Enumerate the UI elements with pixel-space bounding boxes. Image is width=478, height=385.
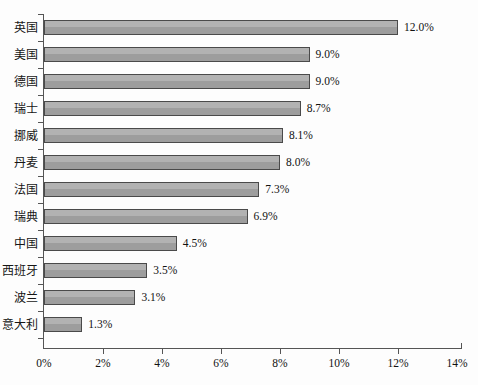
bar-value-label: 1.3% <box>88 317 112 332</box>
category-label: 挪威 <box>0 129 38 143</box>
bar <box>44 74 310 89</box>
y-axis-tick <box>38 41 44 42</box>
bar-value-label: 8.0% <box>286 155 310 170</box>
bar <box>44 101 301 116</box>
category-label: 美国 <box>0 48 38 62</box>
category-label: 瑞士 <box>0 102 38 116</box>
x-axis-tick-label: 10% <box>317 357 361 369</box>
x-axis-right-cap <box>461 343 462 348</box>
category-label: 英国 <box>0 21 38 35</box>
category-label: 波兰 <box>0 291 38 305</box>
x-axis-tick <box>103 349 104 354</box>
y-axis-tick <box>38 338 44 339</box>
bar-value-label: 7.3% <box>265 182 289 197</box>
bar-value-label: 9.0% <box>316 47 340 62</box>
category-label: 意大利 <box>0 318 38 332</box>
bar <box>44 317 82 332</box>
bar-value-label: 4.5% <box>183 236 207 251</box>
y-axis-tick <box>38 284 44 285</box>
x-axis-tick-label: 2% <box>81 357 125 369</box>
bar <box>44 20 398 35</box>
bar-value-label: 3.1% <box>141 290 165 305</box>
bar <box>44 209 248 224</box>
x-axis-tick-label: 8% <box>258 357 302 369</box>
y-axis-tick <box>38 149 44 150</box>
bar <box>44 128 283 143</box>
y-axis-tick <box>38 122 44 123</box>
y-axis-tick <box>38 203 44 204</box>
category-label: 法国 <box>0 183 38 197</box>
y-axis-tick <box>38 230 44 231</box>
bar-value-label: 6.9% <box>254 209 278 224</box>
bar-value-label: 8.7% <box>307 101 331 116</box>
y-axis-tick <box>38 14 44 15</box>
category-label: 西班牙 <box>0 264 38 278</box>
category-label: 丹麦 <box>0 156 38 170</box>
bar <box>44 290 135 305</box>
category-label: 瑞典 <box>0 210 38 224</box>
bar <box>44 263 147 278</box>
bar-chart: 英国12.0%美国9.0%德国9.0%瑞士8.7%挪威8.1%丹麦8.0%法国7… <box>0 0 478 385</box>
bar <box>44 236 177 251</box>
x-axis-tick-label: 14% <box>435 357 478 369</box>
y-axis-tick <box>38 257 44 258</box>
bar-value-label: 9.0% <box>316 74 340 89</box>
bar <box>44 182 259 197</box>
x-axis-tick-label: 12% <box>376 357 420 369</box>
x-axis-tick <box>398 349 399 354</box>
x-axis-tick-label: 0% <box>22 357 66 369</box>
x-axis-left-cap <box>43 344 44 349</box>
bar <box>44 47 310 62</box>
x-axis-tick-label: 6% <box>199 357 243 369</box>
category-label: 德国 <box>0 75 38 89</box>
bar <box>44 155 280 170</box>
x-axis-line <box>43 348 462 349</box>
y-axis-tick <box>38 311 44 312</box>
y-axis-tick <box>38 95 44 96</box>
x-axis-tick-label: 4% <box>140 357 184 369</box>
x-axis-tick <box>339 349 340 354</box>
category-label: 中国 <box>0 237 38 251</box>
x-axis-tick <box>162 349 163 354</box>
x-axis-tick <box>280 349 281 354</box>
y-axis-tick <box>38 176 44 177</box>
y-axis-tick <box>38 68 44 69</box>
bar-value-label: 12.0% <box>404 20 434 35</box>
x-axis-tick <box>221 349 222 354</box>
bar-value-label: 3.5% <box>153 263 177 278</box>
bar-value-label: 8.1% <box>289 128 313 143</box>
